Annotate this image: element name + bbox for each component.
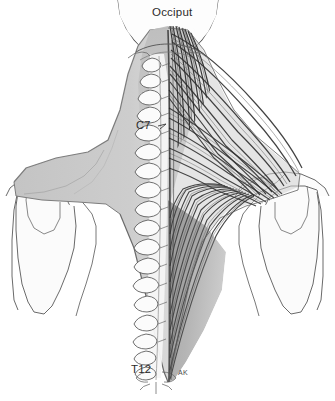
label-c7: C7 [136, 119, 150, 131]
lower-mass-shading [168, 200, 226, 382]
label-occiput: Occiput [152, 6, 192, 18]
label-t12: T12 [131, 363, 151, 375]
anatomy-figure: Occiput C7 T12 AK [0, 0, 335, 401]
anatomy-illustration [0, 0, 335, 401]
artist-signature: AK [178, 369, 188, 376]
